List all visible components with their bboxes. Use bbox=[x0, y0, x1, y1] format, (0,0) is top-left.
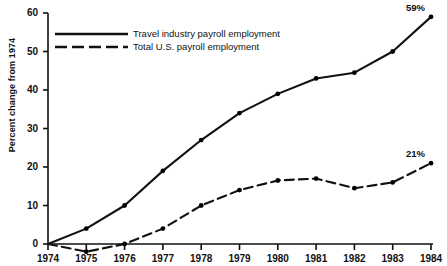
data-point-marker bbox=[390, 49, 395, 54]
data-point-marker bbox=[237, 111, 242, 116]
data-point-marker bbox=[237, 188, 242, 193]
x-tick-label: 1975 bbox=[66, 253, 106, 264]
data-point-marker bbox=[199, 138, 204, 143]
y-tick-label: 10 bbox=[14, 200, 38, 211]
y-tick-label: 60 bbox=[14, 7, 38, 18]
data-point-marker bbox=[352, 70, 357, 75]
data-point-marker bbox=[314, 76, 319, 81]
legend-label-travel-industry: Travel industry payroll employment bbox=[133, 28, 280, 39]
x-tick-label: 1980 bbox=[258, 253, 298, 264]
series-line-total-us bbox=[48, 163, 431, 252]
data-point-marker bbox=[275, 178, 280, 183]
data-point-marker bbox=[314, 176, 319, 181]
data-point-marker bbox=[161, 226, 166, 231]
x-tick-label: 1979 bbox=[220, 253, 260, 264]
x-tick-label: 1984 bbox=[411, 253, 447, 264]
y-tick-label: 30 bbox=[14, 123, 38, 134]
data-point-marker bbox=[122, 203, 127, 208]
data-point-marker bbox=[122, 242, 127, 247]
annotation-total-us-endpoint: 21% bbox=[406, 148, 425, 159]
y-tick-label: 20 bbox=[14, 161, 38, 172]
x-tick-label: 1977 bbox=[143, 253, 183, 264]
data-point-marker bbox=[84, 226, 89, 231]
x-tick-label: 1976 bbox=[105, 253, 145, 264]
data-point-marker bbox=[390, 180, 395, 185]
x-tick-label: 1983 bbox=[373, 253, 413, 264]
y-tick-label: 50 bbox=[14, 46, 38, 57]
x-tick-label: 1978 bbox=[181, 253, 221, 264]
x-tick-label: 1981 bbox=[296, 253, 336, 264]
annotation-travel-industry-endpoint: 59% bbox=[406, 2, 425, 13]
data-point-marker bbox=[429, 14, 434, 19]
legend-label-total-us: Total U.S. payroll employment bbox=[133, 41, 259, 52]
data-point-marker bbox=[429, 161, 434, 166]
y-axis-title: Percent change from 1974 bbox=[7, 20, 17, 170]
y-tick-label: 0 bbox=[14, 238, 38, 249]
data-point-marker bbox=[352, 186, 357, 191]
data-point-marker bbox=[275, 91, 280, 96]
y-tick-label: 40 bbox=[14, 84, 38, 95]
x-tick-label: 1974 bbox=[28, 253, 68, 264]
data-point-marker bbox=[161, 168, 166, 173]
x-tick-label: 1982 bbox=[334, 253, 374, 264]
data-point-marker bbox=[199, 203, 204, 208]
